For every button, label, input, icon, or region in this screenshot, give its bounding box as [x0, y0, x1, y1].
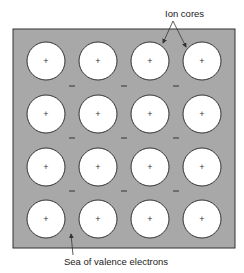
plus-sign: +	[43, 162, 48, 172]
plus-sign: +	[147, 109, 152, 119]
ion-core: +	[183, 95, 221, 133]
plus-sign: +	[95, 109, 100, 119]
plus-sign: +	[43, 109, 48, 119]
plus-sign: +	[199, 109, 204, 119]
ion-core: +	[131, 200, 169, 238]
sea-label: Sea of valence electrons	[64, 256, 168, 267]
plus-sign: +	[95, 56, 100, 66]
metallic-bond-diagram: ++++++++++++++++ Ion cores Sea of valenc…	[0, 0, 244, 273]
ion-core: +	[131, 42, 169, 80]
ion-core: +	[79, 200, 117, 238]
plus-sign: +	[43, 56, 48, 66]
ion-core: +	[27, 95, 65, 133]
ion-core: +	[131, 148, 169, 186]
ion-core: +	[79, 95, 117, 133]
ion-core: +	[79, 42, 117, 80]
plus-sign: +	[199, 162, 204, 172]
ion-cores-label: Ion cores	[165, 8, 204, 19]
ion-core: +	[183, 200, 221, 238]
ion-core: +	[27, 148, 65, 186]
plus-sign: +	[95, 162, 100, 172]
ion-core: +	[27, 42, 65, 80]
ion-core: +	[27, 200, 65, 238]
ion-core: +	[183, 42, 221, 80]
plus-sign: +	[147, 56, 152, 66]
plus-sign: +	[43, 214, 48, 224]
ion-core: +	[131, 95, 169, 133]
plus-sign: +	[95, 214, 100, 224]
ion-core: +	[183, 148, 221, 186]
ion-core: +	[79, 148, 117, 186]
plus-sign: +	[199, 56, 204, 66]
plus-sign: +	[147, 162, 152, 172]
plus-sign: +	[147, 214, 152, 224]
plus-sign: +	[199, 214, 204, 224]
